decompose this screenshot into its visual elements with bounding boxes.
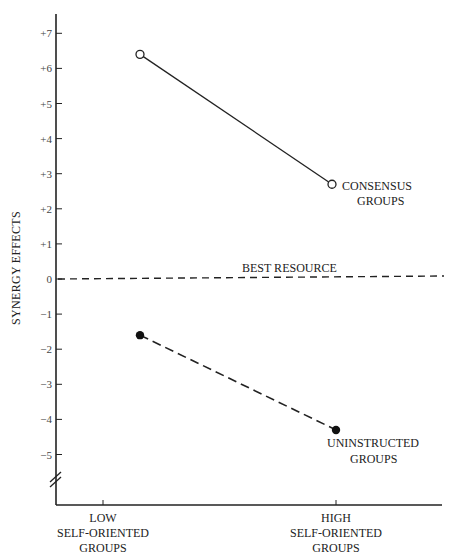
- y-tick-label: 0: [47, 273, 53, 285]
- y-ticks: +7+6+5+4+3+2+10−1−2−3−4−5: [40, 27, 62, 460]
- uninstructed-label-line2: GROUPS: [350, 452, 397, 466]
- category-low-line2: SELF-ORIENTED: [57, 526, 149, 540]
- y-axis-label: SYNERGY EFFECTS: [9, 211, 23, 325]
- consensus-point-high: [328, 180, 336, 188]
- y-tick-label: +4: [40, 133, 52, 145]
- y-tick-label: +5: [40, 98, 52, 110]
- synergy-chart: +7+6+5+4+3+2+10−1−2−3−4−5 SYNERGY EFFECT…: [0, 0, 456, 560]
- y-tick-label: −2: [40, 343, 52, 355]
- consensus-label-line1: CONSENSUS: [342, 179, 412, 193]
- y-tick-label: +1: [40, 238, 52, 250]
- y-tick-label: −1: [40, 308, 52, 320]
- uninstructed-point-low: [136, 331, 144, 339]
- consensus-label-line2: GROUPS: [357, 194, 404, 208]
- y-tick-label: +3: [40, 168, 52, 180]
- y-tick-label: +6: [40, 62, 52, 74]
- category-low-line1: LOW: [89, 511, 117, 525]
- category-high-line2: SELF-ORIENTED: [290, 526, 382, 540]
- y-tick-label: −4: [40, 413, 52, 425]
- y-tick-label: −5: [40, 449, 52, 461]
- y-tick-label: +2: [40, 203, 52, 215]
- y-tick-label: +7: [40, 27, 52, 39]
- consensus-point-low: [136, 50, 144, 58]
- category-high-line1: HIGH: [321, 511, 351, 525]
- best-resource-label: BEST RESOURCE: [242, 261, 337, 275]
- uninstructed-label-line1: UNINSTRUCTED: [327, 436, 419, 450]
- category-high-line3: GROUPS: [312, 541, 359, 555]
- consensus-line: [140, 54, 332, 184]
- uninstructed-point-high: [332, 426, 340, 434]
- category-low-line3: GROUPS: [79, 541, 126, 555]
- uninstructed-line: [140, 335, 336, 430]
- best-resource-line: [58, 276, 444, 279]
- y-tick-label: −3: [40, 378, 52, 390]
